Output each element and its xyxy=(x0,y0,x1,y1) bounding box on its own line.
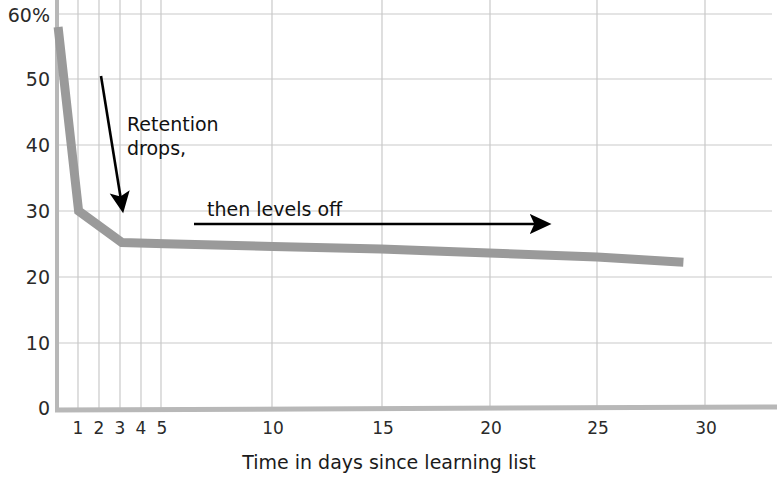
x-tick-label-2: 2 xyxy=(94,418,105,438)
x-tick-label-30: 30 xyxy=(695,418,717,438)
annotation-retention-drops-line2: drops, xyxy=(127,137,186,159)
x-tick-label-5: 5 xyxy=(157,418,168,438)
x-tick-label-15: 15 xyxy=(372,418,394,438)
plot-background xyxy=(57,8,772,408)
y-tick-label-60: 60% xyxy=(8,4,50,26)
y-tick-label-30: 30 xyxy=(26,200,50,222)
x-tick-label-3: 3 xyxy=(115,418,126,438)
annotation-retention-drops-line1: Retention xyxy=(127,113,219,135)
annotation-then-levels-off: then levels off xyxy=(207,198,343,220)
y-tick-label-10: 10 xyxy=(26,332,50,354)
x-tick-label-20: 20 xyxy=(480,418,502,438)
x-tick-label-10: 10 xyxy=(262,418,284,438)
y-tick-label-0: 0 xyxy=(38,397,50,419)
y-tick-label-40: 40 xyxy=(26,134,50,156)
forgetting-curve-chart: 60% 50 40 30 20 10 0 1 2 3 4 5 10 15 20 … xyxy=(0,0,777,479)
chart-canvas: 60% 50 40 30 20 10 0 1 2 3 4 5 10 15 20 … xyxy=(0,0,777,479)
x-tick-label-1: 1 xyxy=(73,418,84,438)
x-axis-line xyxy=(55,407,777,410)
y-tick-label-50: 50 xyxy=(26,68,50,90)
x-axis-title: Time in days since learning list xyxy=(241,451,536,473)
y-tick-label-20: 20 xyxy=(26,266,50,288)
x-tick-label-4: 4 xyxy=(136,418,147,438)
x-tick-label-25: 25 xyxy=(587,418,609,438)
